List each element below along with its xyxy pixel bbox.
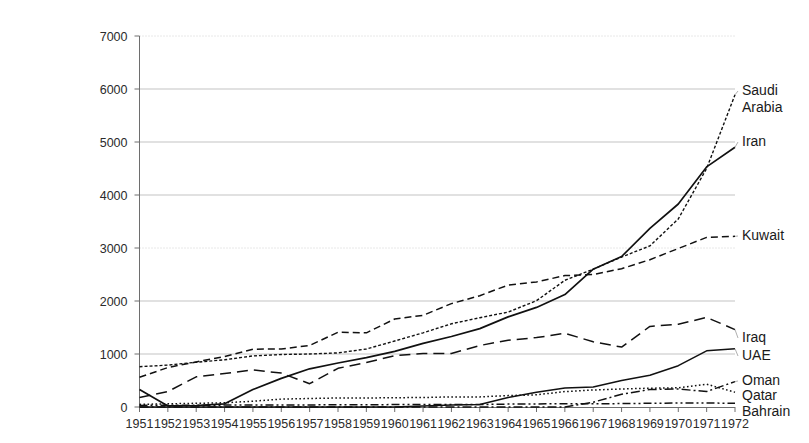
x-axis-label-1972: 1972 xyxy=(721,417,749,431)
x-axis-label-1965: 1965 xyxy=(523,417,551,431)
series-label-iraq: Iraq xyxy=(742,329,766,345)
series-label-saudi-arabia: Arabia xyxy=(742,99,783,115)
x-axis-label-1952: 1952 xyxy=(154,417,182,431)
x-axis-label-1962: 1962 xyxy=(438,417,466,431)
x-axis-label-1968: 1968 xyxy=(608,417,636,431)
y-axis-label-1000: 1000 xyxy=(100,348,128,362)
x-axis-label-1955: 1955 xyxy=(239,417,267,431)
x-axis-label-1963: 1963 xyxy=(466,417,494,431)
x-axis-label-1956: 1956 xyxy=(267,417,295,431)
x-axis-label-1951: 1951 xyxy=(126,417,154,431)
x-axis-label-1953: 1953 xyxy=(182,417,210,431)
line-chart: 01000200030004000500060007000 1951195219… xyxy=(0,0,809,443)
x-axis-label-1967: 1967 xyxy=(579,417,607,431)
x-axis-label-1960: 1960 xyxy=(381,417,409,431)
x-axis-label-1969: 1969 xyxy=(636,417,664,431)
x-axis-label-1970: 1970 xyxy=(664,417,692,431)
x-axis-label-1958: 1958 xyxy=(324,417,352,431)
x-axis-tick-labels: 1951195219531954195519561957195819591960… xyxy=(126,417,749,431)
chart-background xyxy=(0,0,809,443)
series-label-qatar: Qatar xyxy=(742,387,777,403)
x-axis-label-1954: 1954 xyxy=(211,417,239,431)
series-label-uae: UAE xyxy=(742,347,771,363)
series-label-saudi-arabia: Saudi xyxy=(742,82,778,98)
y-axis-label-2000: 2000 xyxy=(100,295,128,309)
x-axis-label-1961: 1961 xyxy=(409,417,437,431)
y-axis-label-4000: 4000 xyxy=(100,189,128,203)
x-axis-label-1959: 1959 xyxy=(352,417,380,431)
y-axis-label-3000: 3000 xyxy=(100,242,128,256)
x-axis-label-1964: 1964 xyxy=(494,417,522,431)
x-axis-label-1971: 1971 xyxy=(693,417,721,431)
series-label-oman: Oman xyxy=(742,372,780,388)
y-axis-label-0: 0 xyxy=(121,401,128,415)
leader-line-oman xyxy=(735,381,738,382)
x-axis-label-1957: 1957 xyxy=(296,417,324,431)
chart-container: 01000200030004000500060007000 1951195219… xyxy=(0,0,809,443)
y-axis-label-7000: 7000 xyxy=(100,30,128,44)
x-axis-label-1966: 1966 xyxy=(551,417,579,431)
y-axis-label-6000: 6000 xyxy=(100,83,128,97)
series-label-bahrain: Bahrain xyxy=(742,403,790,419)
series-label-iran: Iran xyxy=(742,133,766,149)
y-axis-label-5000: 5000 xyxy=(100,136,128,150)
series-label-kuwait: Kuwait xyxy=(742,227,784,243)
